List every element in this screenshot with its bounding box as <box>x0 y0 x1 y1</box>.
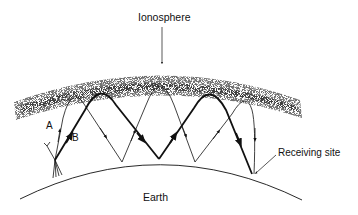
receiving-site-label: Receiving site <box>278 148 340 158</box>
path-b-label: B <box>72 133 79 143</box>
earth-label: Earth <box>143 192 168 203</box>
ionosphere-layer <box>14 75 302 120</box>
receiving-site-arrow <box>256 155 276 173</box>
diagram-canvas <box>0 0 358 215</box>
ionosphere-label: Ionosphere <box>138 12 191 23</box>
transmitting-antenna <box>44 142 62 178</box>
path-a-label: A <box>46 121 53 131</box>
path-b-thick <box>55 94 252 174</box>
